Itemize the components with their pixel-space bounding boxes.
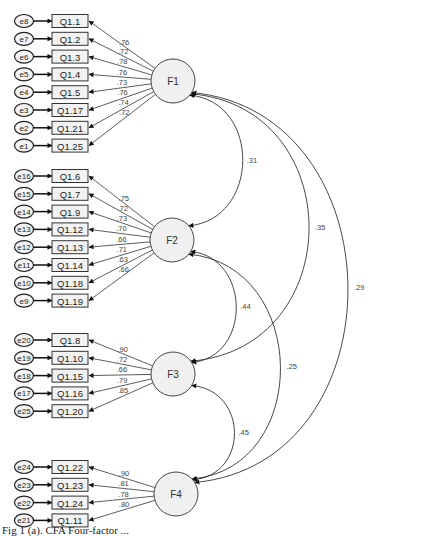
covariance-f1-f4: .29 — [192, 92, 365, 482]
observed-variable-label: Q1.1 — [60, 16, 81, 27]
error-label: e19 — [17, 354, 31, 363]
error-term: e19 — [15, 351, 34, 364]
covariance-curve — [192, 92, 348, 482]
loading-value: .90 — [118, 345, 128, 354]
covariance-f2-f3: .44 — [191, 251, 251, 362]
error-term: e24 — [15, 461, 34, 474]
covariance-curve — [189, 95, 243, 226]
latent-label: F4 — [170, 489, 182, 500]
latent-label: F2 — [166, 235, 178, 246]
observed-variable-label: Q1.9 — [60, 207, 81, 218]
loading-value: .72 — [119, 108, 129, 117]
observed-variable-label: Q1.3 — [60, 52, 81, 63]
covariance-f1-f3: .35 — [191, 94, 326, 361]
error-term: e25 — [15, 405, 34, 418]
indicator-Q1-6: e16Q1.6 — [15, 170, 89, 183]
observed-variable-label: Q1.22 — [57, 462, 83, 473]
error-term: e3 — [15, 104, 34, 117]
indicator-Q1-1: e8Q1.1 — [15, 15, 89, 28]
error-label: e24 — [17, 463, 31, 472]
observed-variable-label: Q1.25 — [57, 141, 83, 152]
loading-value: .76 — [119, 38, 129, 47]
covariance-curve — [192, 385, 235, 479]
error-label: e5 — [20, 70, 29, 79]
observed-variable-label: Q1.5 — [60, 87, 81, 98]
indicator-Q1-21: e2Q1.21 — [15, 121, 89, 134]
loading-value: .76 — [117, 68, 127, 77]
error-term: e8 — [15, 15, 34, 28]
covariance-f2-f4: .25 — [189, 254, 297, 479]
covariance-value: .35 — [315, 223, 325, 232]
observed-variable-label: Q1.2 — [60, 34, 81, 45]
error-label: e25 — [17, 407, 31, 416]
loading-value: .66 — [116, 235, 126, 244]
error-label: e18 — [17, 372, 31, 381]
error-label: e22 — [17, 499, 31, 508]
indicator-Q1-22: e24Q1.22 — [15, 461, 89, 474]
observed-variable-label: Q1.10 — [57, 353, 83, 364]
observed-variable-label: Q1.24 — [57, 498, 83, 509]
error-label: e12 — [17, 243, 31, 252]
observed-variable-label: Q1.17 — [57, 105, 83, 116]
node-layer: e8Q1.1e7Q1.2e6Q1.3e5Q1.4e4Q1.5e3Q1.17e2Q… — [15, 15, 199, 527]
error-label: e16 — [17, 172, 31, 181]
error-label: e11 — [18, 261, 31, 270]
indicator-Q1-14: e11Q1.14 — [15, 259, 89, 272]
error-label: e1 — [20, 142, 29, 151]
error-term: e12 — [15, 241, 34, 254]
error-term: e16 — [15, 170, 34, 183]
observed-variable-label: Q1.19 — [57, 296, 83, 307]
loading-value: .81 — [118, 479, 128, 488]
observed-variable-label: Q1.20 — [57, 406, 83, 417]
latent-factor-f1: F1 — [151, 59, 195, 103]
covariance-curve — [191, 94, 309, 361]
indicator-Q1-12: e13Q1.12 — [15, 223, 89, 236]
loading-value: .80 — [119, 500, 129, 509]
covariance-curve — [191, 251, 237, 362]
indicator-Q1-19: e9Q1.19 — [15, 294, 89, 307]
observed-variable-label: Q1.23 — [57, 480, 83, 491]
error-term: e14 — [15, 205, 34, 218]
loading-value: .78 — [117, 57, 127, 66]
observed-variable-label: Q1.12 — [57, 224, 83, 235]
loading-value: .74 — [118, 98, 128, 107]
indicator-Q1-7: e15Q1.7 — [15, 187, 89, 200]
loading-value: .78 — [118, 490, 128, 499]
observed-variable-label: Q1.21 — [57, 123, 83, 134]
covariance-value: .25 — [286, 362, 296, 371]
covariance-f1-f2: .31 — [189, 95, 257, 226]
indicator-Q1-3: e6Q1.3 — [15, 50, 89, 63]
indicator-Q1-5: e4Q1.5 — [15, 86, 89, 99]
covariance-value: .45 — [238, 428, 248, 437]
error-label: e7 — [20, 35, 29, 44]
loading-value: .70 — [116, 224, 126, 233]
error-term: e17 — [15, 387, 34, 400]
covariance-value: .31 — [247, 156, 257, 165]
error-label: e9 — [20, 297, 29, 306]
error-term: e22 — [15, 496, 34, 509]
loading-value: .73 — [117, 214, 127, 223]
observed-variable-label: Q1.8 — [60, 335, 81, 346]
error-label: e20 — [17, 336, 31, 345]
latent-factor-f2: F2 — [150, 218, 194, 262]
error-term: e20 — [15, 334, 34, 347]
loading-value: .85 — [118, 386, 128, 395]
covariance-value: .44 — [240, 302, 250, 311]
latent-factor-f3: F3 — [151, 352, 195, 396]
error-term: e7 — [15, 32, 34, 45]
loading-value: .73 — [117, 78, 127, 87]
loading-value: .71 — [117, 245, 127, 254]
error-label: e13 — [17, 225, 31, 234]
indicator-Q1-20: e25Q1.20 — [15, 405, 89, 418]
observed-variable-label: Q1.14 — [57, 260, 83, 271]
latent-factor-f4: F4 — [154, 472, 198, 516]
covariance-layer: .31.35.29.44.25.45 — [189, 92, 365, 482]
indicator-Q1-18: e10Q1.18 — [15, 276, 89, 289]
figure-caption: Fig 1 (a). CFA Four-factor ... — [2, 524, 129, 536]
error-term: e4 — [15, 86, 34, 99]
error-term: e6 — [15, 50, 34, 63]
error-term: e10 — [15, 276, 34, 289]
error-label: e8 — [20, 17, 29, 26]
loading-path-layer: .76.72.78.76.73.76.74.72.75.72.73.70.66.… — [89, 21, 155, 520]
indicator-Q1-9: e14Q1.9 — [15, 205, 89, 218]
